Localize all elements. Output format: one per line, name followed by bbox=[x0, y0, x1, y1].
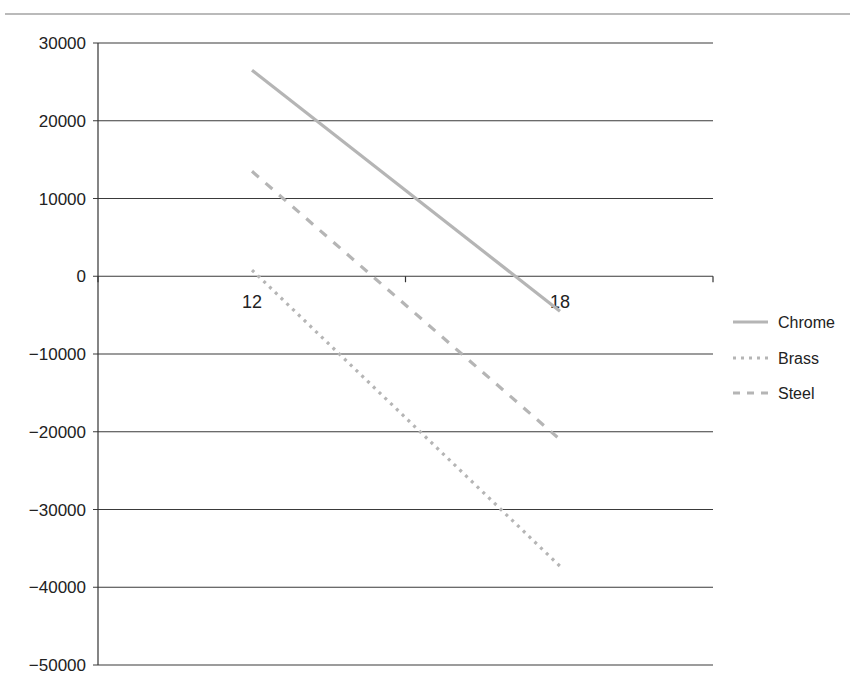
x-tick-label: 12 bbox=[242, 292, 262, 312]
series-line-chrome bbox=[252, 70, 560, 311]
y-tick-label: 0 bbox=[77, 267, 86, 286]
legend-label: Chrome bbox=[778, 314, 835, 331]
series-line-steel bbox=[252, 171, 560, 439]
y-tick-label: −10000 bbox=[29, 345, 86, 364]
gridlines bbox=[93, 43, 713, 665]
line-chart: 3000020000100000−10000−20000−30000−40000… bbox=[0, 0, 853, 681]
y-tick-label: 30000 bbox=[39, 34, 86, 53]
y-tick-label: 20000 bbox=[39, 112, 86, 131]
legend-item-brass: Brass bbox=[733, 350, 819, 367]
y-tick-label: −20000 bbox=[29, 423, 86, 442]
legend-item-chrome: Chrome bbox=[733, 314, 835, 331]
y-axis: 3000020000100000−10000−20000−30000−40000… bbox=[29, 34, 98, 675]
legend-label: Brass bbox=[778, 350, 819, 367]
y-tick-label: −30000 bbox=[29, 501, 86, 520]
series-lines bbox=[252, 70, 560, 566]
legend-label: Steel bbox=[778, 385, 814, 402]
chart-canvas: 3000020000100000−10000−20000−30000−40000… bbox=[0, 0, 853, 681]
y-tick-label: −40000 bbox=[29, 578, 86, 597]
y-tick-label: 10000 bbox=[39, 190, 86, 209]
legend: ChromeBrassSteel bbox=[733, 314, 835, 402]
y-tick-label: −50000 bbox=[29, 656, 86, 675]
series-line-brass bbox=[252, 270, 560, 566]
legend-item-steel: Steel bbox=[733, 385, 814, 402]
